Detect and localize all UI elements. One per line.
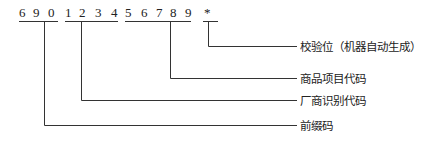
digit: 5 [125,5,132,20]
digit: 4 [111,5,118,20]
digit: 2 [79,5,86,20]
digit: * [204,5,211,20]
digit: 8 [170,5,177,20]
digit: 9 [185,5,192,20]
digit: 3 [95,5,102,20]
barcode-structure-diagram: 6 9 0 1 2 3 4 5 6 7 8 9 * 校验位（机器自动生成） 商品… [0,0,438,142]
manufacturer-digit-group: 1 2 3 4 [65,5,118,22]
product-code-label: 商品项目代码 [300,72,366,86]
product-leader-line [171,22,298,79]
check-digit-label: 校验位（机器自动生成） [300,40,421,54]
prefix-digit-group: 6 9 0 [19,5,58,22]
check-leader-line [209,22,298,47]
prefix-code-label: 前缀码 [300,119,333,133]
digit: 0 [48,5,55,20]
product-digit-group: 5 6 7 8 9 [125,5,192,22]
digit: 6 [141,5,148,20]
digit: 6 [19,5,26,20]
digit: 9 [33,5,40,20]
manufacturer-code-label: 厂商识别代码 [300,94,366,108]
manufacturer-leader-line [82,22,298,101]
digit: 7 [156,5,163,20]
digit: 1 [65,5,72,20]
check-digit-group: * [203,5,218,22]
